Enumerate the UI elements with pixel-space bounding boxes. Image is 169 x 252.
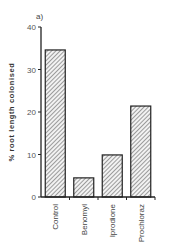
y-tick-label: 40 [27,23,36,32]
x-tick-label: Prochloraz [137,204,146,242]
x-tick-label: Benomyl [80,204,89,235]
bar-benomyl [74,178,94,197]
y-tick-label: 0 [32,193,37,202]
bars [45,50,151,197]
x-tick-label: Control [51,204,60,230]
x-axis: ControlBenomylIprodioneProchloraz [41,197,155,242]
y-axis-label: % root length colonised [7,63,16,162]
y-tick-label: 30 [27,66,36,75]
y-axis: 010203040 [27,23,41,202]
bar-prochloraz [131,106,151,197]
bar-iprodione [102,155,122,197]
x-tick-label: Iprodione [108,203,117,237]
y-tick-label: 10 [27,151,36,160]
bar-chart: a) 010203040 ControlBenomylIprodioneProc… [0,0,169,252]
y-tick-label: 20 [27,108,36,117]
bar-control [45,50,65,197]
panel-label: a) [36,12,43,21]
